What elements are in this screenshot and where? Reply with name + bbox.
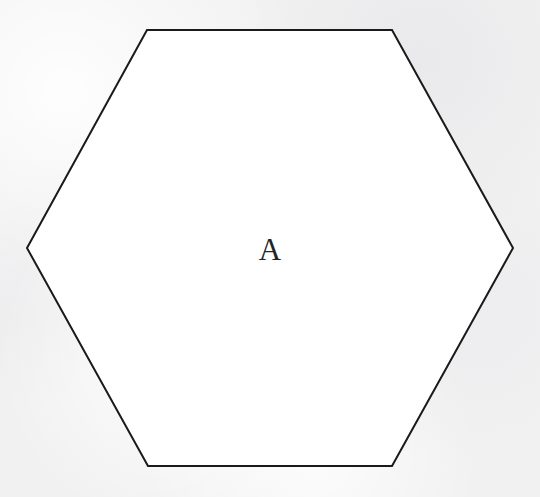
hexagon-label: A	[259, 232, 282, 267]
figure-canvas: A	[0, 0, 540, 497]
hexagon-figure-svg: A	[0, 0, 540, 497]
